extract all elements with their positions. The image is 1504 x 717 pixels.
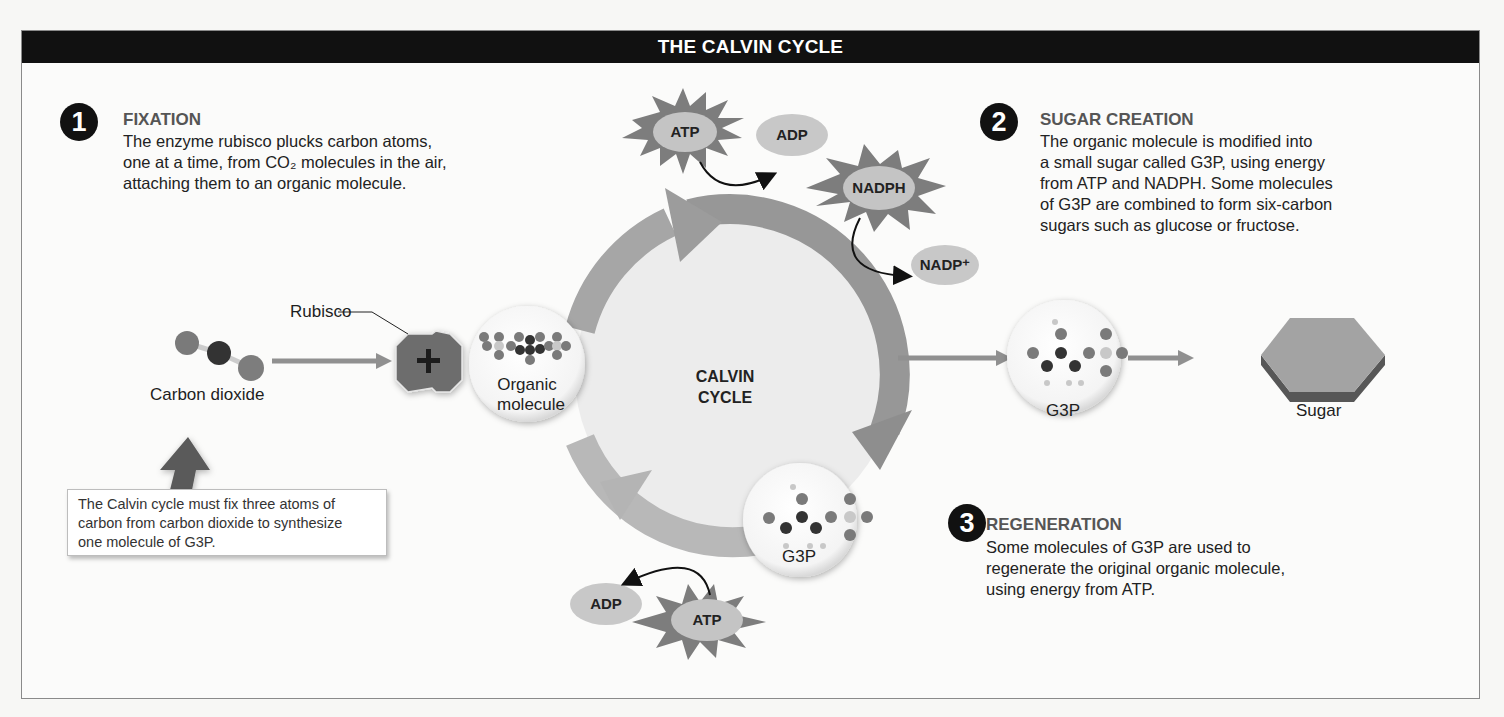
rubisco-label: Rubisco — [290, 302, 351, 322]
step-2-body: The organic molecule is modified into a … — [1040, 131, 1333, 236]
calvin-cycle-graphic — [0, 0, 1504, 717]
sugar-icon — [1261, 318, 1385, 402]
g3p-output-label: G3P — [1046, 401, 1080, 421]
note-pointer-arrow — [160, 437, 210, 490]
step-1-body: The enzyme rubisco plucks carbon atoms, … — [123, 131, 447, 194]
organic-molecule-label: Organic molecule — [497, 375, 557, 415]
fixation-arrow — [272, 353, 392, 369]
carbon-dioxide-label: Carbon dioxide — [150, 385, 264, 405]
atp-to-adp-arrow — [700, 162, 770, 185]
nadp-label: NADP⁺ — [915, 256, 975, 274]
step-1-title: FIXATION — [123, 110, 201, 130]
adp-top-label: ADP — [772, 126, 812, 143]
atp-top-label: ATP — [665, 123, 705, 140]
g3p-cycle-label: G3P — [782, 547, 816, 567]
calvin-cycle-label: CALVIN CYCLE — [680, 366, 770, 408]
fixation-note: The Calvin cycle must fix three atoms of… — [67, 489, 387, 556]
carbon-dioxide-icon — [175, 331, 264, 381]
output-arrow-1 — [898, 350, 1012, 366]
adp-bottom-label: ADP — [586, 595, 626, 612]
step-2-badge: 2 — [980, 103, 1018, 141]
rubisco-icon — [396, 331, 462, 392]
sugar-label: Sugar — [1296, 401, 1341, 421]
output-arrow-2 — [1128, 350, 1194, 366]
step-2-title: SUGAR CREATION — [1040, 110, 1194, 130]
step-3-body: Some molecules of G3P are used to regene… — [986, 537, 1285, 600]
atp-to-adp-bottom-arrow — [628, 568, 710, 595]
step-3-badge: 3 — [948, 504, 986, 542]
atp-bottom-label: ATP — [687, 611, 727, 628]
step-1-badge: 1 — [60, 103, 98, 141]
step-3-title: REGENERATION — [986, 515, 1122, 535]
nadph-label: NADPH — [849, 179, 909, 196]
